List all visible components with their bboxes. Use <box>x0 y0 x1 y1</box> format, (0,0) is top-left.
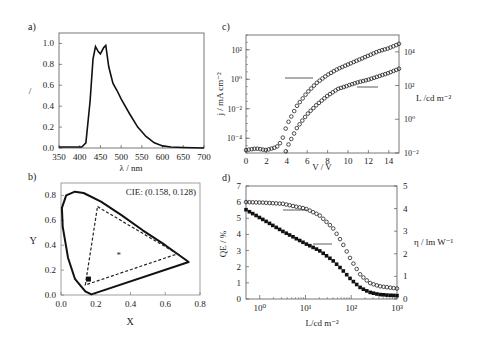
data-point <box>362 276 366 280</box>
data-point <box>325 220 329 224</box>
data-point <box>335 262 339 266</box>
y-tick-label: 2 <box>237 262 242 272</box>
panel-c-x-label: V / V <box>312 162 332 172</box>
data-point <box>348 256 352 260</box>
panel-a-x-label: λ / nm <box>120 163 143 173</box>
panel-b-gamut-triangle <box>85 207 177 285</box>
panel-b-white-point-icon: * <box>117 250 122 260</box>
y-tick-label: 5 <box>237 213 242 223</box>
data-point <box>298 123 302 127</box>
y-right-tick-label: 5 <box>403 181 408 191</box>
data-point <box>365 289 369 293</box>
data-point <box>258 216 262 220</box>
data-point <box>301 119 305 123</box>
y-tick-label: 0 <box>237 294 242 304</box>
panel-a-label: a) <box>28 21 36 33</box>
panel-d-x-label: L/cd m⁻² <box>305 318 338 328</box>
panel-b: b) 0.00.20.40.60.8 0.00.20.40.60.8 * CIE… <box>28 171 206 327</box>
panel-d-left-y-label: QE / % <box>218 230 228 257</box>
data-point <box>298 239 302 243</box>
panel-a: a) 0.00.20.40.60.81.0 350400450500550600… <box>28 21 211 173</box>
panel-a-frame <box>59 33 204 148</box>
y-tick-label: 0.4 <box>43 101 55 111</box>
y-tick-label: 0.6 <box>43 80 55 90</box>
panel-c-right-y-label: L /cd m⁻² <box>416 93 451 103</box>
y-tick-label: 0.8 <box>45 190 57 200</box>
panel-b-x-label: X <box>126 316 134 327</box>
data-point <box>352 262 356 266</box>
y-tick-label: 10² <box>232 46 243 55</box>
panel-a-spectrum-line <box>59 46 204 149</box>
data-point <box>365 279 369 283</box>
y-tick-label: 0.6 <box>45 215 57 225</box>
data-point <box>244 208 248 212</box>
data-point <box>395 294 399 298</box>
x-tick-label: 0.2 <box>90 299 101 309</box>
panel-c-luminance-series <box>284 67 401 153</box>
x-tick-label: 0.4 <box>125 299 137 309</box>
data-point <box>274 226 278 230</box>
x-tick-label: 10³ <box>391 303 403 313</box>
data-point <box>338 237 342 241</box>
data-point <box>362 287 366 291</box>
x-tick-label: 550 <box>135 152 149 162</box>
data-point <box>261 218 265 222</box>
panel-d-label: d) <box>222 172 230 184</box>
data-point <box>338 266 342 270</box>
y-right-tick-label: 0 <box>403 294 408 304</box>
panel-d-right-y-label: η / lm W⁻¹ <box>414 237 454 247</box>
data-point <box>281 230 285 234</box>
data-point <box>345 250 349 254</box>
x-tick-label: 0.8 <box>194 299 206 309</box>
data-point <box>278 228 282 232</box>
data-point <box>392 294 396 298</box>
data-point <box>358 273 362 277</box>
panel-b-cie-point <box>86 277 91 282</box>
data-point <box>251 212 255 216</box>
data-point <box>315 247 319 251</box>
y-tick-label: 10⁻² <box>227 105 242 114</box>
data-point <box>278 141 282 145</box>
x-tick-label: 0.0 <box>55 299 67 309</box>
data-point <box>342 269 346 273</box>
data-point <box>352 280 356 284</box>
data-point <box>328 257 332 261</box>
data-point <box>304 93 308 97</box>
data-point <box>335 232 339 236</box>
data-point <box>318 249 322 253</box>
data-point <box>281 136 285 140</box>
x-tick-label: 350 <box>52 152 66 162</box>
data-point <box>295 126 299 130</box>
x-tick-label: 700 <box>197 152 211 162</box>
data-point <box>305 242 309 246</box>
x-tick-label: 10² <box>345 303 357 313</box>
y-tick-label: 10⁻⁴ <box>227 134 242 143</box>
data-point <box>348 277 352 281</box>
data-point <box>368 291 372 295</box>
y-right-tick-label: 10² <box>404 82 415 91</box>
panel-c-frame <box>246 35 399 153</box>
panel-c-left-y-label: j / mA cm⁻² <box>215 72 225 117</box>
panel-d-left-y-ticks: 01234567 <box>237 181 250 304</box>
x-tick-label: 10 <box>344 156 354 166</box>
panel-a-y-label: / <box>29 86 32 96</box>
panel-d-right-y-ticks: 012345 <box>394 181 408 304</box>
panel-d: d) 01234567 012345 10⁰10¹10²10³ L/cd m⁻²… <box>218 172 454 328</box>
data-point <box>301 241 305 245</box>
data-point <box>355 283 359 287</box>
data-point <box>325 254 329 258</box>
data-point <box>385 293 389 297</box>
panel-c-current-density-series <box>244 42 401 152</box>
y-tick-label: 7 <box>237 181 242 191</box>
data-point <box>254 214 258 218</box>
data-point <box>331 259 335 263</box>
data-point <box>295 104 299 108</box>
data-point <box>292 132 296 136</box>
data-point <box>291 235 295 239</box>
data-point <box>287 120 291 124</box>
data-point <box>298 100 302 104</box>
data-point <box>309 87 313 91</box>
y-right-tick-label: 10⁰ <box>404 115 415 124</box>
y-right-tick-label: 1 <box>403 271 408 281</box>
data-point <box>303 115 307 119</box>
